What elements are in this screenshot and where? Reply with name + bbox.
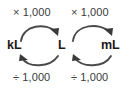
arrow-kl-to-l-head bbox=[50, 28, 59, 36]
unit-conversion-diagram: × 1,000 × 1,000 ÷ 1,000 ÷ 1,000 kL L mL bbox=[0, 0, 129, 90]
operation-label-divide-left: ÷ 1,000 bbox=[13, 72, 50, 83]
arrow-kl-to-l-curve bbox=[21, 26, 56, 41]
unit-label-litre: L bbox=[58, 39, 66, 52]
unit-label-kilolitre: kL bbox=[7, 39, 22, 52]
arrow-ml-to-l-head bbox=[72, 54, 81, 61]
arrow-ml-to-l-curve bbox=[75, 56, 111, 65]
arrow-ml-to-l bbox=[72, 54, 111, 65]
arrow-l-to-ml-head bbox=[104, 28, 113, 36]
arrow-l-to-kl-curve bbox=[22, 56, 58, 65]
operation-label-multiply-left: × 1,000 bbox=[13, 7, 51, 18]
arrow-kl-to-l bbox=[21, 26, 59, 41]
operation-label-multiply-right: × 1,000 bbox=[71, 7, 109, 18]
operation-label-divide-right: ÷ 1,000 bbox=[71, 72, 108, 83]
unit-label-millilitre: mL bbox=[101, 39, 120, 52]
arrow-l-to-kl bbox=[19, 54, 58, 65]
arrow-l-to-kl-head bbox=[19, 54, 28, 61]
